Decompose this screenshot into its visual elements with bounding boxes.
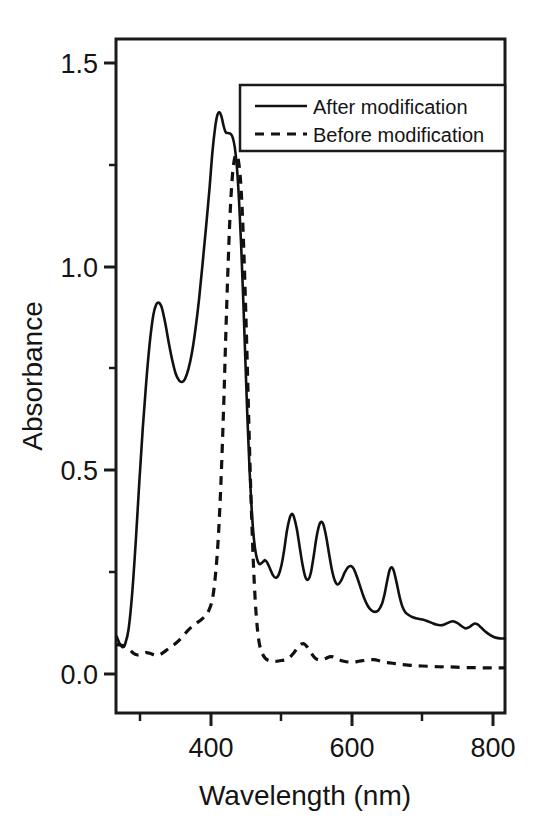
y-tick-label-1-5: 1.5 xyxy=(60,49,98,79)
plot-canvas: 1.5 1.0 0.5 0.0 400 600 800 Absorbance W… xyxy=(0,0,537,839)
x-axis-major-ticks xyxy=(211,713,493,726)
series-line-after-modification xyxy=(117,112,505,647)
legend: After modification Before modification xyxy=(240,85,505,151)
y-tick-label-0-5: 0.5 xyxy=(60,456,98,486)
legend-label-after-modification: After modification xyxy=(313,96,468,118)
y-axis-title: Absorbance xyxy=(17,301,48,450)
x-tick-label-400: 400 xyxy=(188,733,233,763)
x-tick-label-600: 600 xyxy=(329,733,374,763)
x-axis-title: Wavelength (nm) xyxy=(199,780,411,811)
absorbance-spectrum-figure: 1.5 1.0 0.5 0.0 400 600 800 Absorbance W… xyxy=(0,0,537,839)
legend-label-before-modification: Before modification xyxy=(313,124,484,146)
series-line-before-modification xyxy=(117,155,505,668)
y-tick-label-1-0: 1.0 xyxy=(60,253,98,283)
x-tick-label-800: 800 xyxy=(470,733,515,763)
y-tick-label-0-0: 0.0 xyxy=(60,660,98,690)
